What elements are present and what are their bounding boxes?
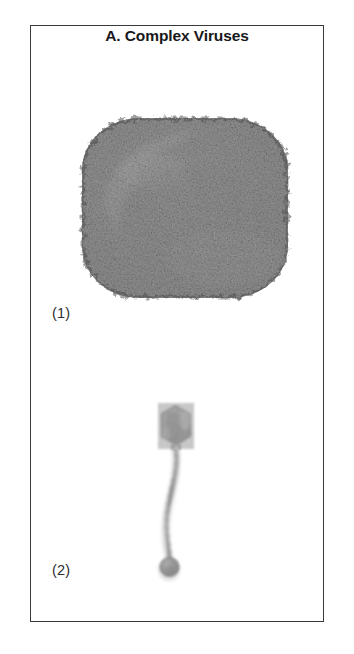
- panel-label-2: (2): [52, 562, 70, 578]
- bacteriophage-base-plate: [160, 557, 179, 576]
- poxvirus-body: [74, 108, 296, 308]
- bacteriophage-head-texture: [158, 403, 194, 449]
- figure-root: A. Complex Viruses: [0, 0, 354, 654]
- bacteriophage-particle-icon: [132, 396, 228, 592]
- bacteriophage-head: [158, 403, 194, 449]
- figure-title: A. Complex Viruses: [0, 27, 354, 45]
- panel-label-1: (1): [52, 305, 70, 321]
- poxvirus-particle-icon: [74, 108, 296, 308]
- poxvirus-granular-texture: [74, 108, 296, 308]
